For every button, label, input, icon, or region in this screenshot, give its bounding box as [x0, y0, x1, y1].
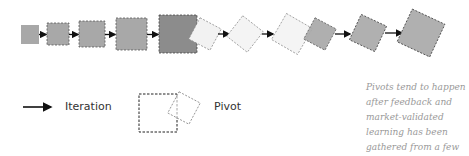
legend-pivot-label: Pivot: [214, 100, 241, 113]
iteration-box-2: [47, 23, 69, 45]
iteration-box-1: [21, 25, 39, 44]
pivot-note: Pivots tend to happen after feedback and…: [366, 80, 466, 156]
legend-pivot-rotated-square: [168, 92, 200, 124]
pivot-box-2: [227, 16, 263, 52]
iteration-box-4: [116, 18, 147, 50]
pivot-box-6: [397, 9, 445, 57]
pivot-box-5: [349, 14, 386, 51]
legend-iteration-label: Iteration: [65, 100, 112, 113]
iteration-box-3: [79, 21, 105, 47]
pivot-box-4: [304, 18, 336, 50]
